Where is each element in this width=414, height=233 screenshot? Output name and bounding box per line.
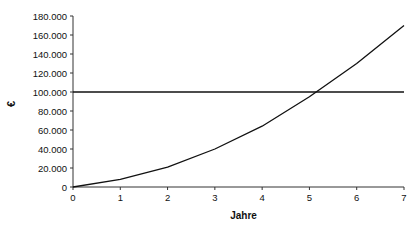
x-axis-label: Jahre	[230, 210, 257, 221]
x-tick-label: 6	[354, 192, 359, 203]
series-line-0	[73, 26, 404, 188]
x-tick-label: 1	[118, 192, 123, 203]
y-tick-label: 80.000	[38, 106, 67, 117]
y-tick-label: 120.000	[33, 68, 67, 79]
y-tick-label: 40.000	[38, 144, 67, 155]
y-tick-label: 160.000	[33, 30, 67, 41]
y-tick-label: 140.000	[33, 49, 67, 60]
x-tick-label: 2	[165, 192, 170, 203]
line-chart: 020.00040.00060.00080.000100.000120.0001…	[0, 0, 414, 233]
x-tick-label: 5	[307, 192, 312, 203]
y-tick-label: 0	[62, 182, 67, 193]
x-axis-ticks: 01234567	[70, 187, 406, 203]
x-tick-label: 7	[401, 192, 406, 203]
y-axis-label: €	[5, 101, 17, 107]
series-lines	[73, 26, 404, 188]
x-tick-label: 3	[212, 192, 217, 203]
y-tick-label: 180.000	[33, 11, 67, 22]
x-tick-label: 0	[70, 192, 75, 203]
y-axis-ticks: 020.00040.00060.00080.000100.000120.0001…	[33, 11, 73, 193]
y-tick-label: 60.000	[38, 125, 67, 136]
x-tick-label: 4	[259, 192, 264, 203]
chart-canvas: 020.00040.00060.00080.000100.000120.0001…	[0, 0, 414, 233]
y-tick-label: 20.000	[38, 163, 67, 174]
y-tick-label: 100.000	[33, 87, 67, 98]
